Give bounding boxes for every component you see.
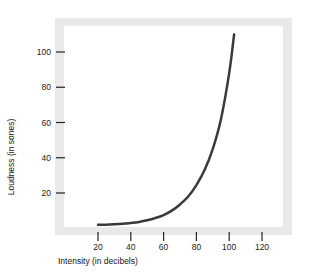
x-tick-label-100: 100 xyxy=(222,242,236,252)
x-axis-title: Intensity (in decibels) xyxy=(58,256,138,266)
x-tick-label-120: 120 xyxy=(255,242,269,252)
plot-canvas xyxy=(0,0,312,276)
y-tick-label-60: 60 xyxy=(16,118,51,128)
y-tick-label-80: 80 xyxy=(16,82,51,92)
x-tick-label-60: 60 xyxy=(159,242,168,252)
y-tick-label-20: 20 xyxy=(16,188,51,198)
loudness-curve xyxy=(98,34,234,224)
x-tick-label-40: 40 xyxy=(126,242,135,252)
x-tick-label-20: 20 xyxy=(93,242,102,252)
y-tick-label-100: 100 xyxy=(16,47,51,57)
x-tick-label-80: 80 xyxy=(192,242,201,252)
y-axis-title: Loudness (in sones) xyxy=(6,107,16,207)
chart-figure: 20406080100 20406080100120 Loudness (in … xyxy=(0,0,312,276)
y-tick-label-40: 40 xyxy=(16,153,51,163)
y-axis-ticks xyxy=(56,52,65,193)
x-axis-ticks xyxy=(98,232,262,241)
